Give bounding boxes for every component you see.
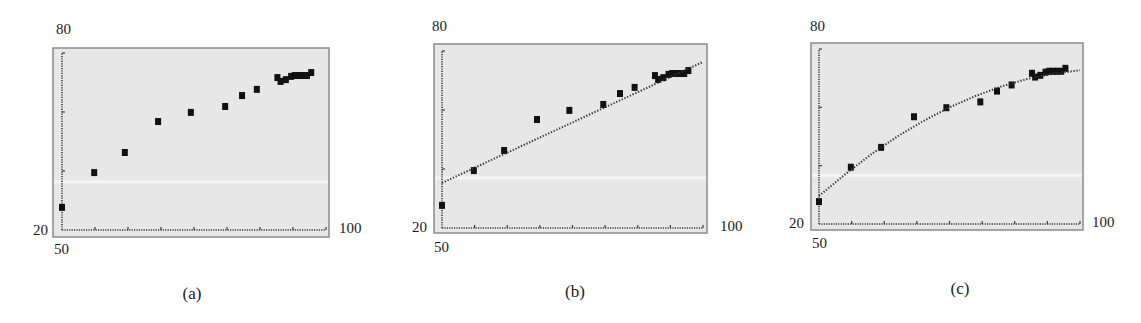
panel-b-data-point <box>439 202 445 209</box>
panel-b-caption: (b) <box>565 283 585 300</box>
panel-a-data-point <box>239 92 245 99</box>
panel-b-light-band <box>435 176 706 179</box>
figure: 80 20 50 100 (a) 80 20 50 100 (b) 80 20 … <box>0 0 1141 323</box>
panel-a-data-point <box>188 109 194 116</box>
panel-a-light-band <box>54 180 328 183</box>
panel-b-data-point <box>501 147 507 154</box>
panel-c-data-point <box>977 98 983 105</box>
panel-c-light-band <box>812 174 1082 177</box>
panel-a-x-min-label: 50 <box>54 242 69 257</box>
panel-a-data-point <box>59 204 65 211</box>
panel-c-y-min-label: 20 <box>789 216 804 231</box>
panel-c-data-point <box>848 164 854 171</box>
panel-b-x-min-label: 50 <box>434 240 449 255</box>
panel-c-data-point <box>816 198 822 205</box>
panel-b-data-point <box>632 84 638 91</box>
panel-b-y-max-label: 80 <box>432 19 447 34</box>
panel-a-y-max-label: 80 <box>56 22 71 37</box>
panel-c-data-point <box>911 113 917 120</box>
panel-b-data-point <box>534 116 540 123</box>
panel-a-y-min-label: 20 <box>33 223 48 238</box>
panel-a-data-point <box>283 76 289 83</box>
panel-c-data-point <box>1037 72 1043 79</box>
panel-a-x-max-label: 100 <box>339 221 362 236</box>
panel-b-data-point <box>617 90 623 97</box>
panel-b-x-max-label: 100 <box>720 219 743 234</box>
panel-c-x-max-label: 100 <box>1092 215 1115 230</box>
panel-b-y-min-label: 20 <box>412 220 427 235</box>
panel-c-data-point <box>1062 65 1068 72</box>
panel-a-data-point <box>122 149 128 156</box>
panel-a-data-point <box>308 69 314 76</box>
panel-c-y-max-label: 80 <box>810 19 825 34</box>
panel-a-data-point <box>254 86 260 93</box>
panel-a-data-point <box>155 118 161 125</box>
panel-a-caption: (a) <box>183 285 202 302</box>
panel-c-x-min-label: 50 <box>812 236 827 251</box>
panel-c-caption: (c) <box>951 280 970 297</box>
panel-b-data-point <box>566 107 572 114</box>
panel-a-data-point <box>91 169 97 176</box>
panel-a-data-point <box>222 103 228 110</box>
plots-canvas <box>0 0 1141 323</box>
panel-a-data-point <box>278 78 284 85</box>
panel-c-plot-area <box>811 43 1083 230</box>
